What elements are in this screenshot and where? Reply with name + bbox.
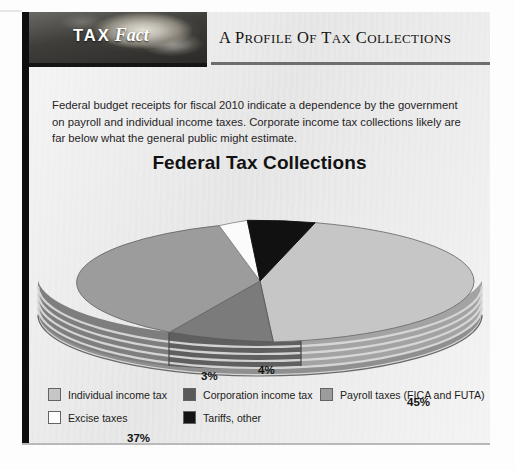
legend-swatch-icon [48,411,61,424]
logo-underbar [29,63,207,67]
page-title: A PROFILE OF TAX COLLECTIONS [219,28,451,48]
page-spine [22,12,29,444]
scanned-page-canvas: TAXFact A PROFILE OF TAX COLLECTIONS Fed… [0,0,515,470]
pie-label-excise-taxes: 3% [201,370,218,382]
scan-margin-top [0,0,515,12]
legend-item-payroll-taxes[interactable]: Payroll taxes (FICA and FUTA) [320,388,485,401]
legend-label: Payroll taxes (FICA and FUTA) [340,389,485,401]
legend-swatch-icon [183,388,196,401]
legend-swatch-icon [183,411,196,424]
pie-label-tariffs-other: 4% [258,364,275,376]
intro-paragraph: Federal budget receipts for fiscal 2010 … [52,97,464,146]
legend-label: Individual income tax [68,389,167,401]
scan-margin-right [490,0,515,470]
scan-margin-bottom [0,445,515,470]
scan-margin-top-rule [0,10,22,12]
legend-swatch-icon [320,388,333,401]
legend-row-1: Individual income tax Corporation income… [48,388,488,411]
chart-title: Federal Tax Collections [29,152,490,174]
legend-swatch-icon [48,388,61,401]
legend-label: Tariffs, other [203,412,261,424]
header-divider-rule [211,62,515,65]
legend-label: Corporation income tax [203,389,313,401]
legend-row-2: Excise taxes Tariffs, other [48,411,488,434]
legend-item-excise-taxes[interactable]: Excise taxes [48,411,127,424]
legend-item-tariffs-other[interactable]: Tariffs, other [183,411,261,424]
chart-legend: Individual income tax Corporation income… [48,388,488,434]
scan-margin-left [0,0,22,470]
legend-label: Excise taxes [68,412,127,424]
logo-word-fact: Fact [115,25,149,45]
pie-chart: 3% 4% 45% 37% 11% [29,186,490,376]
pie-chart-svg [29,186,490,381]
logo-word-tax: TAX [73,26,111,44]
article-header: TAXFact A PROFILE OF TAX COLLECTIONS [29,12,490,66]
tax-fact-logo-text: TAXFact [73,25,149,46]
tax-fact-logo-banner: TAXFact [29,12,207,63]
legend-item-corporation-income-tax[interactable]: Corporation income tax [183,388,313,401]
legend-item-individual-income-tax[interactable]: Individual income tax [48,388,167,401]
